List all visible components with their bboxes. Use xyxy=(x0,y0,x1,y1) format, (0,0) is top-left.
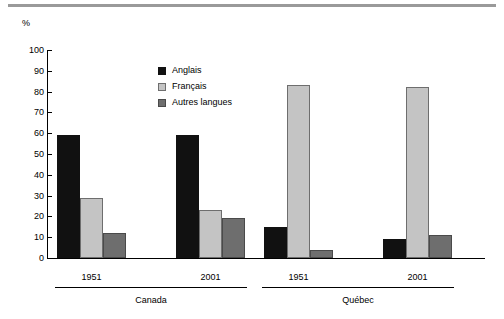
legend-swatch-autres-langues-icon xyxy=(158,99,166,107)
y-axis-tick-label-wrap: 20 xyxy=(0,212,44,221)
y-axis-tick-label-wrap: 30 xyxy=(0,192,44,201)
bar-anglais-canada-1951 xyxy=(57,135,80,258)
y-axis-tick-label: 90 xyxy=(4,67,44,76)
y-axis-tick-label: 10 xyxy=(4,233,44,242)
x-axis-group-rule xyxy=(55,287,247,288)
bar-francais-qubec-1951 xyxy=(287,85,310,258)
legend-label-francais: Français xyxy=(172,82,207,91)
chart-figure: % 1009080706050403020100 Anglais Françai… xyxy=(0,0,504,319)
top-divider-rule xyxy=(8,4,496,7)
x-axis-region-label: Canada xyxy=(55,296,247,305)
legend-label-autres-langues: Autres langues xyxy=(172,98,232,107)
y-axis-tick-label: 40 xyxy=(4,171,44,180)
y-axis-tick-label: 20 xyxy=(4,212,44,221)
x-axis-year-label: 1951 xyxy=(269,273,329,282)
y-axis-tick-label-wrap: 90 xyxy=(0,67,44,76)
y-axis-tick-label-wrap: 80 xyxy=(0,88,44,97)
y-axis-unit-label: % xyxy=(22,18,30,28)
y-axis-tick-label: 50 xyxy=(4,150,44,159)
x-axis-year-label: 2001 xyxy=(388,273,448,282)
legend-item-francais: Français xyxy=(158,80,232,93)
chart-legend: Anglais Français Autres langues xyxy=(158,64,232,112)
y-axis-tick-label-wrap: 50 xyxy=(0,150,44,159)
y-axis-tick-label: 60 xyxy=(4,129,44,138)
legend-item-autres-langues: Autres langues xyxy=(158,96,232,109)
x-axis-region-label: Québec xyxy=(262,296,454,305)
legend-label-anglais: Anglais xyxy=(172,66,202,75)
bar-anglais-qubec-1951 xyxy=(264,227,287,258)
bars-plot-area xyxy=(48,50,484,258)
x-axis-year-label: 1951 xyxy=(62,273,122,282)
legend-swatch-francais-icon xyxy=(158,83,166,91)
bar-autres-qubec-2001 xyxy=(429,235,452,258)
y-axis-tick-label: 0 xyxy=(4,254,44,263)
y-axis-tick-label-wrap: 70 xyxy=(0,108,44,117)
y-axis-tick-mark xyxy=(47,258,52,259)
legend-item-anglais: Anglais xyxy=(158,64,232,77)
bar-francais-canada-1951 xyxy=(80,198,103,258)
bar-anglais-qubec-2001 xyxy=(383,239,406,258)
bar-francais-qubec-2001 xyxy=(406,87,429,258)
y-axis-tick-label: 80 xyxy=(4,88,44,97)
y-axis-tick-label-wrap: 100 xyxy=(0,46,44,55)
legend-swatch-anglais-icon xyxy=(158,67,166,75)
bar-autres-canada-1951 xyxy=(103,233,126,258)
x-axis-year-label: 2001 xyxy=(181,273,241,282)
bar-anglais-canada-2001 xyxy=(176,135,199,258)
y-axis-tick-label-wrap: 40 xyxy=(0,171,44,180)
y-axis-tick-label-wrap: 0 xyxy=(0,254,44,263)
y-axis-tick-label: 70 xyxy=(4,108,44,117)
x-axis-line xyxy=(47,258,485,259)
bar-autres-qubec-1951 xyxy=(310,250,333,258)
y-axis-tick-label: 30 xyxy=(4,192,44,201)
y-axis-tick-label-wrap: 60 xyxy=(0,129,44,138)
y-axis-tick-label: 100 xyxy=(4,46,44,55)
y-axis-tick-label-wrap: 10 xyxy=(0,233,44,242)
x-axis-group-rule xyxy=(262,287,454,288)
bar-francais-canada-2001 xyxy=(199,210,222,258)
bar-autres-canada-2001 xyxy=(222,218,245,258)
